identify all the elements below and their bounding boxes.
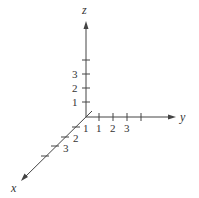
z-axis-label: z (81, 3, 87, 17)
z-axis: 1 2 3 z (72, 3, 90, 117)
axes-diagram: 1 2 3 z 1 2 3 y 1 2 3 x (0, 0, 199, 198)
x-axis-label: x (10, 181, 17, 195)
z-tick-3: 3 (72, 68, 78, 80)
x-tick-1: 1 (83, 122, 89, 134)
z-tick-1: 1 (72, 96, 78, 108)
y-tick-2: 2 (110, 122, 116, 134)
y-tick-3: 3 (124, 122, 130, 134)
y-axis: 1 2 3 y (86, 110, 186, 134)
z-tick-2: 2 (72, 82, 78, 94)
y-tick-1: 1 (96, 122, 102, 134)
z-arrow-icon (84, 21, 89, 29)
y-arrow-icon (168, 115, 176, 120)
x-tick-2: 2 (73, 132, 79, 144)
x-axis: 1 2 3 x (10, 111, 92, 195)
y-axis-label: y (179, 110, 186, 124)
x-tick-3: 3 (63, 142, 69, 154)
